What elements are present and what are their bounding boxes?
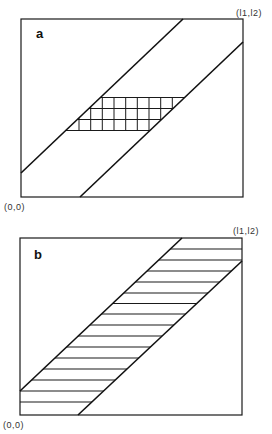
panel-a-origin-label: (0,0) (4, 202, 25, 212)
panel-b-label: b (34, 247, 42, 262)
panel-b: b (l1,l2) (0,0) (0, 226, 272, 430)
panel-a: a (l1,l2) (0,0) (0, 8, 272, 212)
diagram-canvas: a (l1,l2) (0,0) b (l1,l2) (0,0) (0, 0, 272, 434)
panel-a-corner-label: (l1,l2) (236, 8, 262, 18)
panel-a-upper-diagonal (21, 19, 183, 173)
panel-b-origin-label: (0,0) (3, 420, 24, 430)
panel-a-grid (0, 98, 272, 131)
panel-b-corner-label: (l1,l2) (233, 226, 259, 236)
panel-a-label: a (36, 26, 44, 41)
panel-b-lower-diagonal (78, 261, 242, 415)
panel-b-frame (20, 238, 242, 415)
